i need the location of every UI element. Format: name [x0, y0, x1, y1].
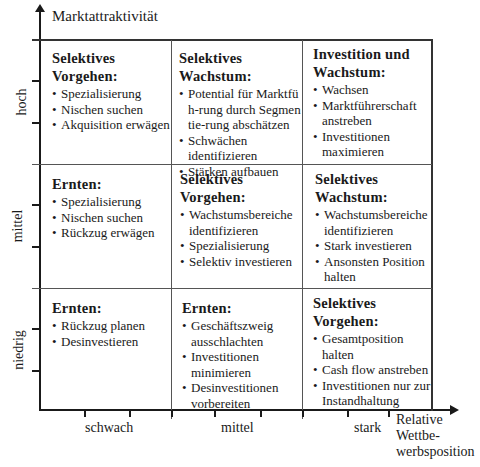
- y-tick: [32, 370, 40, 372]
- list-item: Rückzug planen: [52, 318, 170, 334]
- x-tick: [388, 410, 390, 417]
- y-tick: [32, 328, 40, 330]
- list-item: Wachstumsbereiche identifizieren: [315, 207, 430, 238]
- x-axis-title-line: Relative: [396, 412, 475, 428]
- row-divider: [32, 288, 432, 289]
- x-tick: [347, 410, 349, 417]
- y-level-label-mittel: mittel: [10, 206, 26, 246]
- x-tick: [214, 410, 216, 417]
- list-item: Spezialisierung: [52, 86, 170, 102]
- list-item: Investitionen maximieren: [313, 129, 429, 160]
- matrix-cell-hoch-mittel: SelektivesWachstum: Potential für Marktf…: [179, 49, 301, 179]
- x-tick: [129, 410, 131, 417]
- x-tick: [171, 410, 173, 417]
- cell-title: SelektivesVorgehen:: [180, 170, 301, 206]
- cell-title: SelektivesVorgehen:: [313, 294, 431, 330]
- y-tick: [32, 80, 40, 82]
- cell-title: Ernten:: [52, 175, 170, 193]
- x-level-label-mittel: mittel: [221, 420, 254, 436]
- y-tick: [32, 204, 40, 206]
- y-tick: [32, 246, 40, 248]
- cell-title: SelektivesVorgehen:: [52, 49, 170, 85]
- x-axis-title-line: Wettbe-: [396, 428, 475, 444]
- grid-right-border: [431, 39, 433, 411]
- matrix-cell-mittel-mittel: SelektivesVorgehen: Wachstumsbereiche id…: [180, 170, 301, 269]
- list-item: Schwächen identifizieren: [179, 133, 301, 164]
- list-item: Akquisition erwägen: [52, 117, 170, 133]
- list-item: Investitionen nur zur Instandhaltung: [313, 378, 431, 409]
- matrix-cell-hoch-stark: Investition undWachstum: Wachsen Marktfü…: [313, 45, 429, 160]
- list-item: Spezialisierung: [180, 238, 301, 254]
- matrix-cell-hoch-schwach: SelektivesVorgehen: Spezialisierung Nisc…: [52, 49, 170, 133]
- list-item: Stark investieren: [315, 238, 430, 254]
- y-level-label-hoch: hoch: [14, 82, 30, 122]
- cell-title: Ernten:: [52, 299, 170, 317]
- x-tick: [260, 410, 262, 417]
- matrix-cell-niedrig-mittel: Ernten: Geschäftszweig ausschlachten Inv…: [182, 299, 301, 411]
- list-item: Wachsen: [313, 82, 429, 98]
- list-item: Ansonsten Position halten: [315, 254, 430, 285]
- list-item: Geschäftszweig ausschlachten: [182, 318, 301, 349]
- column-divider: [171, 40, 172, 419]
- x-axis-title-line: werbsposition: [396, 444, 475, 460]
- x-tick: [84, 410, 86, 417]
- list-item: Cash flow anstreben: [313, 362, 431, 378]
- cell-title: SelektivesWachstum:: [179, 49, 301, 85]
- x-level-label-stark: stark: [354, 420, 381, 436]
- x-level-label-schwach: schwach: [85, 420, 133, 436]
- list-item: Desinvestieren: [52, 334, 170, 350]
- cell-title: SelektivesWachstum:: [315, 170, 430, 206]
- y-axis-title: Marktattraktivität: [52, 8, 158, 25]
- list-item: Rückzug erwägen: [52, 225, 170, 241]
- y-tick: [32, 122, 40, 124]
- list-item: Marktführerschaft anstreben: [313, 98, 429, 129]
- list-item: Wachstumsbereiche identifizieren: [180, 207, 301, 238]
- x-tick: [302, 410, 304, 417]
- cell-title: Investition undWachstum:: [313, 45, 429, 81]
- matrix-cell-mittel-schwach: Ernten: Spezialisierung Nischen suchen R…: [52, 175, 170, 241]
- y-level-label-niedrig: niedrig: [11, 325, 27, 375]
- y-axis: [39, 8, 41, 411]
- column-divider: [302, 40, 303, 419]
- matrix-cell-niedrig-schwach: Ernten: Rückzug planen Desinvestieren: [52, 299, 170, 349]
- list-item: Nischen suchen: [52, 210, 170, 226]
- x-axis-title: Relative Wettbe- werbsposition: [396, 412, 475, 460]
- list-item: Investitionen minimieren: [182, 349, 301, 380]
- list-item: Spezialisierung: [52, 194, 170, 210]
- cell-title: Ernten:: [182, 299, 301, 317]
- list-item: Gesamtposition halten: [313, 331, 431, 362]
- list-item: Potential für Marktfüh-rung durch Segmen…: [179, 86, 301, 133]
- grid-top-border: [32, 39, 432, 41]
- matrix-cell-niedrig-stark: SelektivesVorgehen: Gesamtposition halte…: [313, 294, 431, 409]
- list-item: Desinvestitionen vorbereiten: [182, 380, 301, 411]
- list-item: Selektiv investieren: [180, 254, 301, 270]
- list-item: Nischen suchen: [52, 102, 170, 118]
- matrix-cell-mittel-stark: SelektivesWachstum: Wachstumsbereiche id…: [315, 170, 430, 285]
